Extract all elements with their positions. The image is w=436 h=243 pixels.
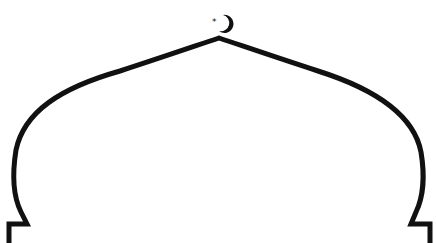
svg-text:*: * (212, 17, 217, 27)
arch-drawing: * (0, 0, 436, 243)
arch-outline (9, 38, 430, 243)
crescent-star-icon: * (212, 15, 233, 33)
